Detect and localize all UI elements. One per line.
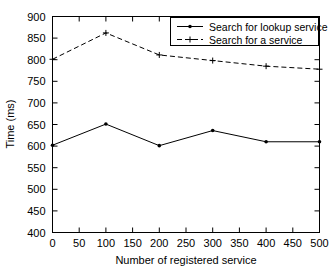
line-chart: 400450500550600650700750800850900 050100… [0,0,335,276]
x-tick-label: 200 [150,237,168,249]
legend-sample-marker [188,25,192,29]
x-tick-label: 300 [204,237,222,249]
x-tick-label: 250 [177,237,195,249]
x-tick-label: 350 [230,237,248,249]
y-tick-label: 700 [27,97,45,109]
y-tick-label: 800 [27,54,45,66]
x-tick-label: 150 [123,237,141,249]
x-tick-label: 500 [310,237,328,249]
legend-label: Search for a service [209,34,303,46]
x-axis-title: Number of registered service [115,254,256,266]
x-tick-label: 400 [257,237,275,249]
data-point-marker [158,144,162,148]
y-tick-label: 400 [27,227,45,239]
data-point-marker [104,122,108,126]
x-tick-label: 450 [284,237,302,249]
legend-label: Search for lookup service [209,21,328,33]
x-tick-label: 0 [49,237,55,249]
x-tick-label: 50 [73,237,85,249]
x-tick-label: 100 [97,237,115,249]
y-tick-label: 750 [27,75,45,87]
y-tick-label: 900 [27,11,45,23]
y-tick-label: 500 [27,183,45,195]
y-tick-label: 850 [27,32,45,44]
y-tick-label: 600 [27,140,45,152]
y-tick-label: 450 [27,205,45,217]
data-point-marker [211,129,215,133]
data-point-marker [264,140,268,144]
chart-figure: 400450500550600650700750800850900 050100… [0,0,335,276]
chart-legend: Search for lookup serviceSearch for a se… [171,18,328,46]
data-point-marker [51,143,55,147]
data-point-marker [318,140,322,144]
y-tick-label: 550 [27,162,45,174]
y-axis-title: Time (ms) [4,99,16,148]
y-tick-label: 650 [27,119,45,131]
